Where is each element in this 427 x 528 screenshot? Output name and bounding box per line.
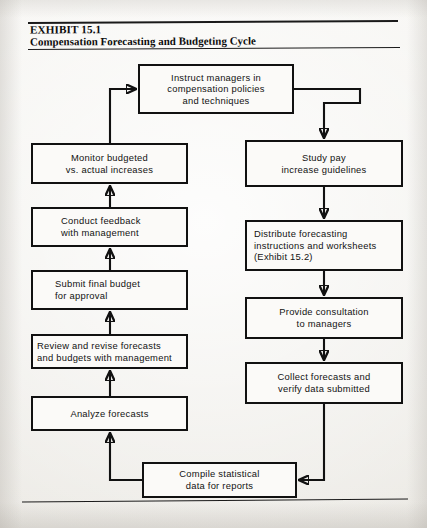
- edge-instruct-to-study-pay: [294, 89, 360, 137]
- node-collect-forecasts[interactable]: Collect forecasts and verify data submit…: [245, 362, 403, 404]
- node-compile-statistical-label: Compile statistical data for reports: [179, 468, 259, 491]
- edge-monitor-to-instruct: [110, 89, 135, 143]
- node-conduct-feedback-label: Conduct feedback with management: [61, 215, 141, 238]
- node-review-revise-label: Review and revise forecasts and budgets …: [37, 340, 172, 363]
- exhibit-page: EXHIBIT 15.1 Compensation Forecasting an…: [0, 0, 427, 528]
- node-provide-consultation-label: Provide consultation to managers: [279, 306, 368, 329]
- node-submit-final-budget-label: Submit final budget for approval: [55, 278, 140, 301]
- node-distribute-forecasting[interactable]: Distribute forecasting instructions and …: [245, 220, 403, 271]
- node-analyze-forecasts-label: Analyze forecasts: [70, 408, 148, 420]
- flowchart: Instruct managers in compensation polici…: [0, 0, 427, 528]
- node-provide-consultation[interactable]: Provide consultation to managers: [245, 297, 403, 339]
- node-compile-statistical[interactable]: Compile statistical data for reports: [142, 462, 297, 498]
- node-analyze-forecasts[interactable]: Analyze forecasts: [31, 396, 188, 431]
- node-instruct-managers[interactable]: Instruct managers in compensation polici…: [138, 64, 294, 114]
- node-collect-forecasts-label: Collect forecasts and verify data submit…: [278, 371, 371, 394]
- edge-collect-to-compile: [300, 404, 324, 480]
- node-monitor-budgeted[interactable]: Monitor budgeted vs. actual increases: [31, 143, 188, 184]
- node-review-revise[interactable]: Review and revise forecasts and budgets …: [31, 334, 188, 369]
- node-distribute-forecasting-label: Distribute forecasting instructions and …: [254, 228, 376, 263]
- edge-compile-to-analyze: [110, 434, 142, 480]
- node-study-pay[interactable]: Study pay increase guidelines: [245, 140, 403, 187]
- node-instruct-managers-label: Instruct managers in compensation polici…: [167, 72, 265, 107]
- node-submit-final-budget[interactable]: Submit final budget for approval: [31, 270, 188, 310]
- node-study-pay-label: Study pay increase guidelines: [281, 152, 366, 175]
- node-conduct-feedback[interactable]: Conduct feedback with management: [31, 207, 188, 247]
- node-monitor-budgeted-label: Monitor budgeted vs. actual increases: [66, 152, 153, 175]
